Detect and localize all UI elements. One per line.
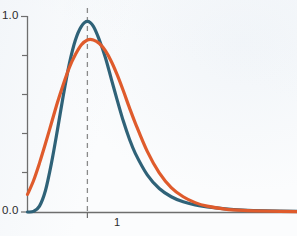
- y-axis-bottom-label: 0.0: [2, 204, 19, 216]
- y-axis-ticks: [21, 17, 28, 213]
- y-axis-top-label: 1.0: [2, 9, 19, 21]
- x-axis-tick-label-1: 1: [114, 216, 120, 228]
- teal-curve: [28, 21, 298, 212]
- chart-figure: 1.0 0.0 1: [0, 0, 297, 236]
- plot-canvas: [0, 0, 297, 236]
